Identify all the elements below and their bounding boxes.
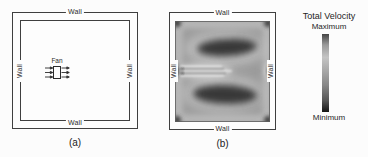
panel-a-wall-label-top: Wall bbox=[66, 8, 84, 16]
panel-a-wall-label-bottom: Wall bbox=[66, 119, 84, 127]
fan-label: Fan bbox=[44, 57, 70, 64]
panel-b-wall-label-left: Wall bbox=[170, 60, 178, 82]
panel-a-domain: Wall Wall Wall Wall Fan bbox=[12, 12, 138, 129]
panel-a-wall-label-left: Wall bbox=[16, 60, 24, 82]
legend-minimum-label: Minimum bbox=[290, 113, 368, 122]
figure-fan-ventilation: Wall Wall Wall Wall Fan (a) bbox=[0, 0, 368, 157]
panel-a-inner-wall bbox=[20, 20, 130, 121]
panel-a-wall-label-right: Wall bbox=[126, 60, 134, 82]
legend-maximum-label: Maximum bbox=[290, 22, 368, 31]
panel-b-wall-label-top: Wall bbox=[213, 9, 231, 17]
panel-a-caption: (a) bbox=[12, 137, 138, 148]
panel-b-domain: Wall Wall Wall Wall bbox=[169, 12, 276, 130]
legend-title: Total Velocity bbox=[290, 11, 368, 21]
fan: Fan bbox=[44, 57, 70, 80]
panel-b-caption: (b) bbox=[169, 138, 276, 149]
velocity-contour bbox=[175, 21, 270, 122]
panel-b-wall-label-bottom: Wall bbox=[213, 125, 231, 133]
fan-icon bbox=[44, 65, 70, 80]
colorbar bbox=[322, 34, 329, 112]
panel-b-wall-label-right: Wall bbox=[267, 60, 275, 82]
